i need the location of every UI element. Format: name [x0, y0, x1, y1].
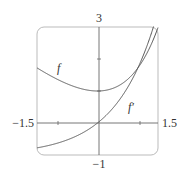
x-min-label: −1.5	[12, 116, 34, 130]
f-prime-curve	[37, 27, 154, 148]
chart: 3 −1 −1.5 1.5 f f′	[0, 0, 191, 179]
f-label: f	[57, 61, 62, 75]
x-max-label: 1.5	[162, 116, 177, 130]
f-prime-label: f′	[128, 100, 134, 114]
y-max-label: 3	[96, 11, 102, 25]
y-min-label: −1	[93, 157, 106, 171]
